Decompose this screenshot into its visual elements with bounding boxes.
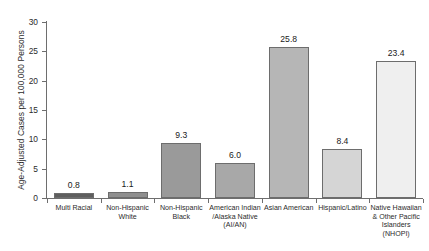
x-tick-mark xyxy=(47,199,48,203)
category-label: Asian American xyxy=(258,204,320,213)
category-label-line: Multi Racial xyxy=(43,204,105,213)
category-label: Native Hawaiian& Other PacificIslanders(… xyxy=(365,204,427,238)
bar-value-label: 23.4 xyxy=(366,49,426,58)
category-label-line: White xyxy=(97,213,159,222)
category-label-line: Asian American xyxy=(258,204,320,213)
x-axis-spine xyxy=(46,198,423,199)
bar xyxy=(322,149,362,198)
category-label-line: & Other Pacific xyxy=(365,213,427,222)
y-tick-label: 5 xyxy=(12,165,38,173)
y-tick-label: 10 xyxy=(12,135,38,143)
category-label-line: /Alaska Native xyxy=(204,213,266,222)
bar xyxy=(54,193,94,198)
category-label: American Indian/Alaska Native(AI/AN) xyxy=(204,204,266,230)
category-label: Multi Racial xyxy=(43,204,105,213)
y-tick-label: 30 xyxy=(12,18,38,26)
bar xyxy=(269,47,309,198)
x-tick-mark xyxy=(369,199,370,203)
category-label-line: Non-Hispanic xyxy=(97,204,159,213)
y-tick-label: 25 xyxy=(12,47,38,55)
x-tick-mark xyxy=(154,199,155,203)
x-tick-mark xyxy=(101,199,102,203)
category-label-line: Native Hawaiian xyxy=(365,204,427,213)
bar-value-label: 1.1 xyxy=(98,180,158,189)
category-label: Hispanic/Latino xyxy=(312,204,374,213)
x-tick-mark xyxy=(423,199,424,203)
bar xyxy=(376,61,416,198)
category-label-line: Non-Hispanic xyxy=(150,204,212,213)
bar-value-label: 25.8 xyxy=(259,35,319,44)
bar xyxy=(215,163,255,198)
bar-value-label: 0.8 xyxy=(44,181,104,190)
category-label-line: Hispanic/Latino xyxy=(312,204,374,213)
category-label-line: Black xyxy=(150,213,212,222)
bar-value-label: 9.3 xyxy=(151,131,211,140)
category-label-line: (AI/AN) xyxy=(204,221,266,230)
bar-value-label: 8.4 xyxy=(312,137,372,146)
y-tick-label: 0 xyxy=(12,194,38,202)
category-label: Non-HispanicBlack xyxy=(150,204,212,221)
category-label-line: American Indian xyxy=(204,204,266,213)
y-tick-label: 15 xyxy=(12,106,38,114)
x-tick-mark xyxy=(208,199,209,203)
category-label-line: Islanders xyxy=(365,221,427,230)
bar-chart: Age-Adjusted Cases per 100,000 Persons 0… xyxy=(0,0,429,251)
x-tick-mark xyxy=(316,199,317,203)
category-label-line: (NHOPI) xyxy=(365,230,427,239)
bar xyxy=(108,192,148,198)
y-tick-label: 20 xyxy=(12,77,38,85)
category-label: Non-HispanicWhite xyxy=(97,204,159,221)
bar xyxy=(161,143,201,198)
x-tick-mark xyxy=(262,199,263,203)
bar-value-label: 6.0 xyxy=(205,151,265,160)
